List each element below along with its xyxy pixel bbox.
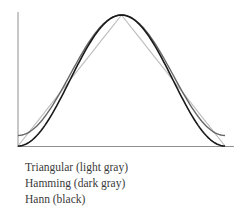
legend-item-triangular: Triangular (light gray) (25, 159, 128, 175)
series-hann (18, 15, 225, 146)
series-triangular (18, 15, 225, 146)
legend: Triangular (light gray) Hamming (dark gr… (25, 159, 128, 207)
window-functions-plot (0, 0, 246, 160)
legend-item-hann: Hann (black) (25, 191, 128, 207)
series-hamming (18, 15, 225, 136)
legend-item-hamming: Hamming (dark gray) (25, 175, 128, 191)
